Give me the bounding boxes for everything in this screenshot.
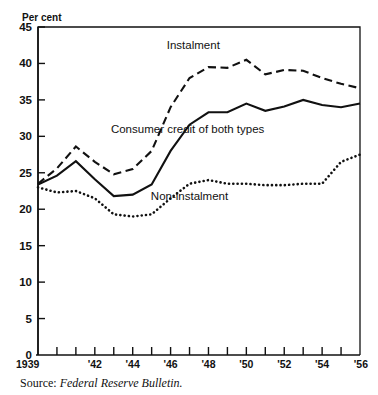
series-line-instalment [38, 60, 360, 184]
x-tick-label: '42 [88, 358, 102, 370]
y-tick-label: 40 [19, 57, 32, 69]
y-tick-label: 30 [19, 130, 32, 142]
chart-annotations-group: InstalmentConsumer credit of both typesN… [111, 39, 265, 203]
y-tick-label: 20 [19, 203, 32, 215]
x-tick-label: '52 [277, 358, 291, 370]
y-tick-label: 10 [19, 276, 32, 288]
y-tick-label: 5 [26, 313, 33, 325]
series-label-consumer-credit-of-both-types: Consumer credit of both types [111, 123, 265, 135]
source-publication: Federal Reserve Bulletin. [60, 376, 183, 390]
x-tick-label: '54 [315, 358, 329, 370]
x-tick-label: 1939 [16, 358, 40, 370]
series-label-instalment: Instalment [167, 39, 221, 51]
series-line-non-instalment [38, 155, 360, 217]
series-label-non-instalment: Non-instalment [151, 190, 229, 202]
x-tick-label: '48 [201, 358, 215, 370]
source-prefix: Source: [20, 376, 57, 390]
chart-figure: Per cent 051015202530354045 1939'42'44'4… [0, 0, 378, 395]
x-tick-label: '44 [126, 358, 140, 370]
x-tick-label: '50 [239, 358, 253, 370]
y-tick-label: 45 [19, 21, 32, 33]
y-axis-ticks: 051015202530354045 [19, 21, 45, 361]
y-tick-label: 35 [19, 94, 32, 106]
source-note: Source: Federal Reserve Bulletin. [20, 376, 183, 391]
x-tick-label: '56 [354, 358, 368, 370]
x-tick-label: '46 [163, 358, 177, 370]
y-tick-label: 15 [19, 240, 32, 252]
line-chart-plot: 051015202530354045 1939'42'44'46'48'50'5… [0, 0, 378, 395]
y-tick-label: 25 [19, 167, 32, 179]
x-axis-ticks: 1939'42'44'46'48'50'52'54'56 [16, 347, 368, 370]
